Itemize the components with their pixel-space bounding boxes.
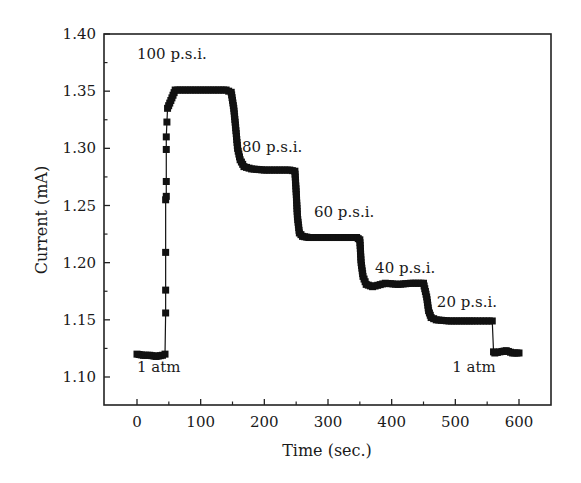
data-marker bbox=[163, 193, 170, 200]
annotations: 100 p.s.i.80 p.s.i.60 p.s.i.40 p.s.i.20 … bbox=[137, 45, 497, 376]
x-axis-title: Time (sec.) bbox=[282, 441, 372, 460]
x-axis-ticks: 0100200300400500600 bbox=[132, 399, 533, 431]
pressure-annotation: 80 p.s.i. bbox=[242, 138, 302, 156]
data-marker bbox=[162, 249, 169, 256]
x-tick-label: 300 bbox=[314, 413, 343, 431]
pressure-annotation: 100 p.s.i. bbox=[137, 45, 207, 63]
x-tick-label: 600 bbox=[505, 413, 534, 431]
pressure-annotation: 40 p.s.i. bbox=[375, 259, 435, 277]
y-axis-title: Current (mA) bbox=[32, 166, 51, 274]
data-series bbox=[134, 87, 523, 360]
pressure-annotation: 60 p.s.i. bbox=[314, 203, 374, 221]
data-marker bbox=[163, 133, 170, 140]
y-tick-label: 1.15 bbox=[63, 311, 96, 329]
x-tick-label: 400 bbox=[377, 413, 406, 431]
y-tick-label: 1.25 bbox=[63, 197, 96, 215]
data-marker bbox=[162, 287, 169, 294]
x-tick-label: 100 bbox=[186, 413, 215, 431]
x-tick-label: 0 bbox=[132, 413, 142, 431]
data-marker bbox=[162, 309, 169, 316]
series-line bbox=[137, 90, 519, 356]
y-tick-label: 1.10 bbox=[63, 368, 96, 386]
current-vs-time-chart: 0100200300400500600 1.101.151.201.251.30… bbox=[0, 0, 581, 483]
data-marker bbox=[162, 351, 169, 358]
pressure-annotation: 1 atm bbox=[452, 358, 496, 376]
data-marker bbox=[516, 349, 523, 356]
data-marker bbox=[163, 178, 170, 185]
x-tick-label: 500 bbox=[441, 413, 470, 431]
y-tick-label: 1.20 bbox=[63, 254, 96, 272]
y-axis-ticks: 1.101.151.201.251.301.351.40 bbox=[63, 25, 110, 386]
pressure-annotation: 20 p.s.i. bbox=[437, 293, 497, 311]
y-tick-label: 1.35 bbox=[63, 82, 96, 100]
y-tick-label: 1.30 bbox=[63, 139, 96, 157]
data-marker bbox=[163, 146, 170, 153]
y-tick-label: 1.40 bbox=[63, 25, 96, 43]
data-marker bbox=[163, 119, 170, 126]
data-marker bbox=[489, 317, 496, 324]
x-tick-label: 200 bbox=[250, 413, 279, 431]
pressure-annotation: 1 atm bbox=[137, 358, 181, 376]
